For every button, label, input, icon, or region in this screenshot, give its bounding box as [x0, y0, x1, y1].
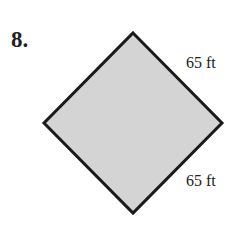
side-label-lower-right: 65 ft [186, 172, 216, 190]
diamond-figure [0, 0, 244, 234]
side-label-upper-right: 65 ft [186, 54, 216, 72]
